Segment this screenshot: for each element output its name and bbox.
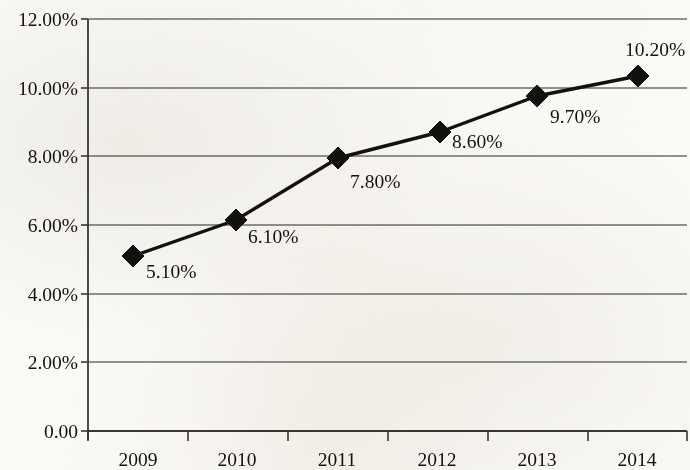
data-label-2014: 10.20%	[625, 39, 685, 60]
y-axis-label-0: 0.00	[44, 421, 78, 442]
x-axis-label-2009: 2009	[119, 449, 158, 470]
y-axis-label-10: 10.00%	[18, 78, 78, 99]
x-axis-label-2013: 2013	[518, 449, 557, 470]
data-point-marker-2014[interactable]	[627, 65, 649, 87]
y-tick-marks	[81, 19, 88, 431]
y-axis-labels: 12.00% 10.00% 8.00% 6.00% 4.00% 2.00% 0.…	[18, 9, 78, 442]
data-markers	[122, 65, 649, 267]
line-chart: 12.00% 10.00% 8.00% 6.00% 4.00% 2.00% 0.…	[0, 0, 690, 470]
data-label-2012: 8.60%	[452, 131, 502, 152]
x-tick-marks	[88, 431, 687, 441]
axes	[88, 19, 687, 440]
y-axis-label-8: 8.00%	[28, 146, 78, 167]
x-axis-label-2014: 2014	[618, 449, 657, 470]
data-point-marker-2010[interactable]	[225, 209, 247, 231]
data-point-marker-2011[interactable]	[327, 147, 349, 169]
data-point-marker-2009[interactable]	[122, 245, 144, 267]
data-label-2010: 6.10%	[248, 226, 298, 247]
x-axis-label-2010: 2010	[218, 449, 257, 470]
y-axis-label-2: 2.00%	[28, 352, 78, 373]
x-axis-labels: 2009 2010 2011 2012 2013 2014	[119, 449, 657, 470]
data-label-2013: 9.70%	[550, 106, 600, 127]
x-axis-label-2012: 2012	[418, 449, 457, 470]
data-point-marker-2012[interactable]	[429, 121, 451, 143]
data-label-2011: 7.80%	[350, 171, 400, 192]
data-labels: 5.10% 6.10% 7.80% 8.60% 9.70% 10.20%	[146, 39, 685, 282]
data-series-line	[133, 76, 638, 256]
y-axis-label-6: 6.00%	[28, 215, 78, 236]
x-axis-label-2011: 2011	[318, 449, 356, 470]
y-axis-label-12: 12.00%	[18, 9, 78, 30]
chart-container: 12.00% 10.00% 8.00% 6.00% 4.00% 2.00% 0.…	[0, 0, 690, 470]
y-axis-label-4: 4.00%	[28, 284, 78, 305]
data-label-2009: 5.10%	[146, 261, 196, 282]
